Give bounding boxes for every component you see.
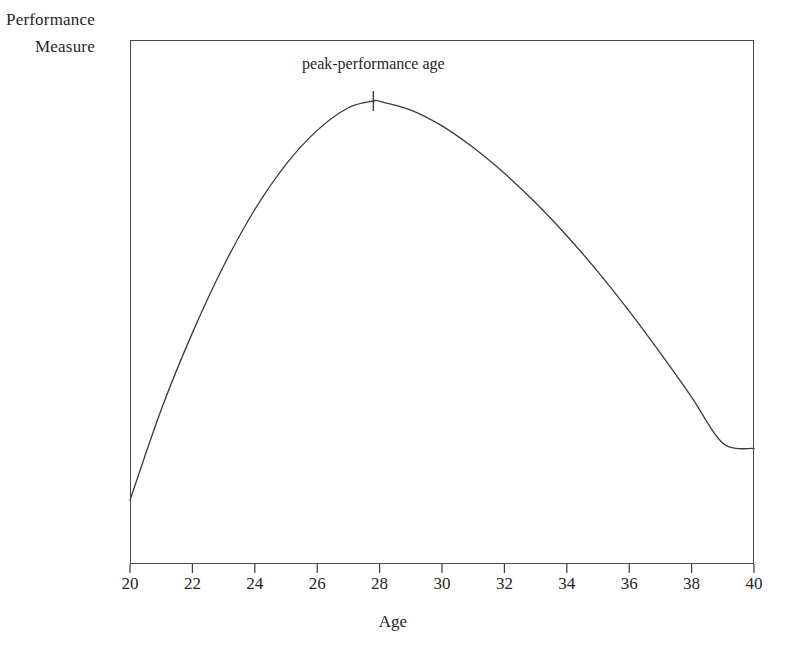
peak-performance-annotation: peak-performance age [266, 55, 480, 73]
x-axis-tick-label: 36 [606, 574, 652, 594]
x-axis-tick-label: 30 [419, 574, 465, 594]
plot-frame [130, 40, 754, 564]
x-axis-tick-label: 22 [169, 574, 215, 594]
y-axis-label-line2: Measure [6, 33, 124, 60]
y-axis-label-line1: Performance [6, 10, 95, 29]
y-axis-label: Performance Measure [6, 6, 124, 60]
x-axis-tick-label: 20 [107, 574, 153, 594]
chart-figure: Performance Measure peak-performance age… [0, 0, 786, 665]
x-axis-tick-label: 26 [294, 574, 340, 594]
x-axis-tick-label: 34 [544, 574, 590, 594]
x-axis-title: Age [0, 612, 786, 632]
x-axis-tick-label: 28 [357, 574, 403, 594]
x-axis-tick-label: 24 [232, 574, 278, 594]
x-axis-tick-label: 32 [481, 574, 527, 594]
x-axis-ticks [130, 564, 754, 573]
x-axis-tick-label: 38 [669, 574, 715, 594]
x-axis-tick-label: 40 [731, 574, 777, 594]
